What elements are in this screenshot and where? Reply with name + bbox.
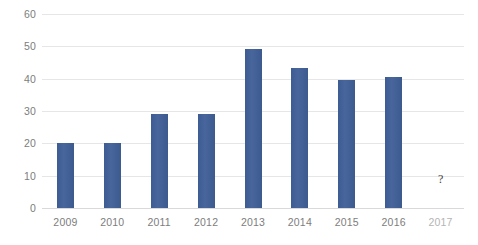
bar-chart: 0102030405060 20092010201120122013201420… [0,0,478,245]
bar-2014 [291,68,308,208]
x-axis: 200920102011201220132014201520162017 [42,212,464,236]
x-axis-tick-label-2017: 2017 [418,216,464,228]
x-axis-tick-label-2015: 2015 [324,216,370,228]
gridline-0 [42,208,464,209]
y-axis-tick-label-0: 0 [6,203,36,213]
y-axis-tick-label-10: 10 [6,171,36,181]
y-axis-tick-label-30: 30 [6,106,36,116]
bar-2010 [104,143,121,208]
x-axis-tick-label-2011: 2011 [136,216,182,228]
y-axis-tick-label-50: 50 [6,41,36,51]
x-axis-tick-label-2009: 2009 [42,216,88,228]
y-axis-tick-label-40: 40 [6,74,36,84]
bar-2012 [198,114,215,208]
x-axis-tick-label-2014: 2014 [277,216,323,228]
unknown-value-marker: ? [431,173,451,185]
bar-2013 [245,49,262,208]
y-axis-tick-label-20: 20 [6,138,36,148]
x-axis-tick-label-2013: 2013 [230,216,276,228]
bar-2015 [338,80,355,208]
x-axis-tick-label-2016: 2016 [371,216,417,228]
bar-2011 [151,114,168,208]
gridline-50 [42,46,464,47]
plot-area [42,14,464,208]
y-axis-tick-label-60: 60 [6,9,36,19]
bar-2009 [57,143,74,208]
bar-2016 [385,77,402,208]
x-axis-tick-label-2012: 2012 [183,216,229,228]
x-axis-tick-label-2010: 2010 [89,216,135,228]
gridline-60 [42,14,464,15]
y-axis: 0102030405060 [0,14,36,208]
